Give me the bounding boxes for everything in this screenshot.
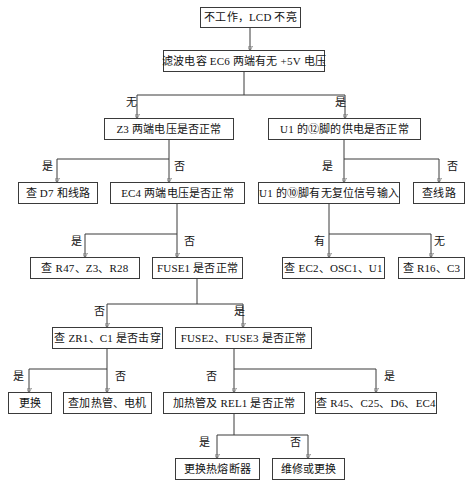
edge-label-has-reset: 有 (314, 236, 325, 247)
node-check-z3: Z3 两端电压是否正常 (104, 118, 234, 140)
node-repair-or-replace: 维修或更换 (272, 458, 345, 480)
edge-label-no-fuse23: 否 (206, 371, 217, 382)
node-check-ec6: 滤波电容 EC6 两端有无 +5V 电压 (163, 50, 325, 72)
node-check-heater-motor: 查加热管、电机 (63, 392, 152, 414)
node-check-zr1-c1: 查 ZR1、C1 是否击穿 (52, 327, 163, 349)
edge-label-yes-u1-pin12: 是 (322, 161, 333, 172)
edge-label-no-ec4: 否 (184, 236, 195, 247)
edge-label-yes-ec6: 是 (335, 97, 346, 108)
edge-label-no-ec6: 无 (126, 97, 137, 108)
node-check-ec4: EC4 两端电压是否正常 (110, 182, 245, 204)
node-replace: 更换 (8, 392, 52, 414)
node-check-fuse1: FUSE1 是否正常 (152, 257, 243, 279)
edge-label-no-heater: 否 (290, 437, 301, 448)
node-check-d7: 查 D7 和线路 (18, 182, 98, 204)
node-check-heater-rel1: 加热管及 REL1 是否正常 (163, 392, 305, 414)
node-replace-thermal-fuse: 更换热熔断器 (175, 458, 260, 480)
edge-label-no-zr1: 否 (115, 371, 126, 382)
node-check-ec2-osc1-u1: 查 EC2、OSC1、U1 (282, 257, 385, 279)
edge-label-no-u1-pin12: 否 (447, 161, 458, 172)
node-check-r47-z3-r28: 查 R47、Z3、R28 (30, 257, 140, 279)
flowchart-canvas: 不工作，LCD 不亮 滤波电容 EC6 两端有无 +5V 电压 Z3 两端电压是… (0, 0, 473, 492)
edge-label-no-fuse1: 否 (94, 306, 105, 317)
edge-label-yes-ec4: 是 (71, 236, 82, 247)
edge-label-yes-heater: 是 (199, 437, 210, 448)
node-check-r16-c3: 查 R16、C3 (398, 257, 465, 279)
edge-label-yes-fuse1: 是 (234, 306, 245, 317)
edge-label-no-reset: 无 (434, 236, 445, 247)
edge-label-yes-fuse23: 是 (384, 371, 395, 382)
edge-label-no-z3: 否 (174, 161, 185, 172)
node-check-r45-c25-d6-ec4: 查 R45、C25、D6、EC4 (315, 392, 437, 414)
node-check-wiring: 查线路 (413, 182, 465, 204)
node-check-u1-pin10: U1 的⑩脚有无复位信号输入 (258, 182, 400, 204)
node-start: 不工作，LCD 不亮 (200, 7, 301, 28)
edge-label-yes-z3: 是 (42, 161, 53, 172)
node-check-u1-pin12: U1 的⑫脚的供电是否正常 (268, 118, 421, 140)
edge-label-yes-zr1: 是 (13, 371, 24, 382)
node-check-fuse2-fuse3: FUSE2、FUSE3 是否正常 (175, 327, 312, 349)
